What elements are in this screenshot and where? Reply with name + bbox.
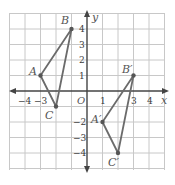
coordinate-plane: y x O −4 −3 1 3 4 4 3 2 1 −2 −3 −4 A B C… xyxy=(0,0,175,185)
origin-label: O xyxy=(77,95,85,106)
y-tick-label: 4 xyxy=(79,24,85,34)
label-c-prime: C′ xyxy=(108,156,119,169)
y-tick-label: 3 xyxy=(79,40,85,50)
x-tick-label: 3 xyxy=(131,96,137,106)
y-tick-label: −3 xyxy=(73,133,87,143)
label-b: B xyxy=(60,14,69,27)
y-tick-label: 2 xyxy=(79,55,85,65)
x-tick-label: 4 xyxy=(147,96,153,106)
label-b-prime: B′ xyxy=(121,63,133,76)
point-c xyxy=(54,104,58,108)
y-tick-label: −4 xyxy=(73,148,87,158)
x-tick-label: −4 xyxy=(18,96,32,106)
y-tick-label: 1 xyxy=(79,71,85,81)
x-axis-label: x xyxy=(161,94,168,107)
y-axis-label: y xyxy=(91,11,99,24)
x-tick-label: −3 xyxy=(34,96,48,106)
label-a: A xyxy=(28,65,37,78)
label-a-prime: A′ xyxy=(90,113,102,126)
x-axis-left-arrow-icon xyxy=(9,88,16,94)
point-b xyxy=(69,27,73,31)
y-axis-down-arrow-icon xyxy=(84,166,90,173)
y-tick-label: −2 xyxy=(73,117,86,127)
x-tick-label: 1 xyxy=(100,96,106,106)
point-c-prime xyxy=(116,151,120,155)
point-a xyxy=(38,73,42,77)
axes xyxy=(9,10,169,173)
label-c: C xyxy=(45,109,54,122)
